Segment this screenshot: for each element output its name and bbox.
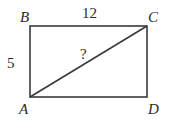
side-length-top: 12 [82, 5, 97, 21]
diagonal-unknown-label: ? [80, 46, 87, 62]
vertex-label-d: D [147, 101, 159, 117]
vertex-label-b: B [20, 9, 29, 25]
diagonal-ac [30, 26, 147, 97]
side-length-left: 5 [7, 55, 15, 71]
vertex-label-c: C [148, 9, 159, 25]
rectangle-diagram: B C A D 12 5 ? [0, 0, 172, 128]
vertex-label-a: A [18, 101, 29, 117]
